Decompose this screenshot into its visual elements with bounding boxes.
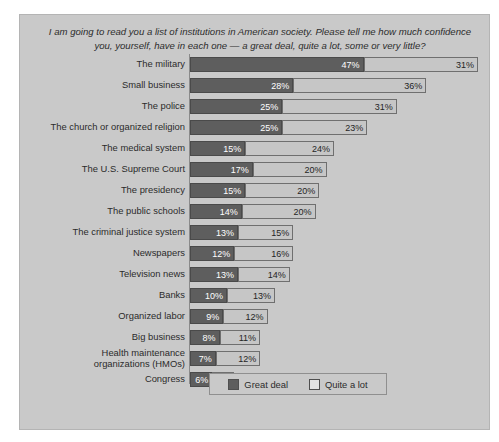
bar-segment-quite-a-lot: 31% (282, 99, 396, 114)
legend-item-great-deal: Great deal (228, 379, 288, 390)
bar-segment-great-deal: 13% (190, 267, 238, 282)
bar-segment-quite-a-lot: 23% (282, 120, 367, 135)
chart-legend: Great deal Quite a lot (209, 373, 387, 395)
bar-segment-quite-a-lot: 20% (242, 204, 316, 219)
bar-segment-quite-a-lot: 13% (227, 288, 275, 303)
bar-row: Organized labor9%12% (20, 306, 491, 327)
bar-row: The medical system15%24% (20, 138, 491, 159)
bar-segment-quite-a-lot: 20% (245, 183, 319, 198)
bar-segment-great-deal: 7% (190, 351, 216, 366)
bar-segment-quite-a-lot: 12% (223, 309, 267, 324)
bar-segment-great-deal: 25% (190, 120, 282, 135)
bar-row-label: Congress (20, 369, 188, 390)
bar-row: The public schools14%20% (20, 201, 491, 222)
bar-segment-great-deal: 15% (190, 183, 245, 198)
bar-row: Small business28%36% (20, 75, 491, 96)
bar-segment-great-deal: 12% (190, 246, 234, 261)
bar-row-label: The public schools (20, 201, 188, 222)
bar-segment-great-deal: 17% (190, 162, 253, 177)
bar-segment-great-deal: 10% (190, 288, 227, 303)
bar-segment-great-deal: 9% (190, 309, 223, 324)
bar-row-label: Newspapers (20, 243, 188, 264)
bar-row-label: The medical system (20, 138, 188, 159)
bar-row: Television news13%14% (20, 264, 491, 285)
bar-segment-great-deal: 8% (190, 330, 220, 345)
bar-row-label: The military (20, 54, 188, 75)
bar-row: The U.S. Supreme Court17%20% (20, 159, 491, 180)
bar-row: Big business8%11% (20, 327, 491, 348)
bar-segment-great-deal: 28% (190, 78, 293, 93)
bar-row: The criminal justice system13%15% (20, 222, 491, 243)
bar-row-label: The church or organized religion (20, 117, 188, 138)
bar-segment-quite-a-lot: 11% (220, 330, 261, 345)
legend-label-quite-a-lot: Quite a lot (325, 379, 368, 390)
bar-row: Newspapers12%16% (20, 243, 491, 264)
bar-segment-great-deal: 47% (190, 57, 364, 72)
bar-segment-quite-a-lot: 16% (234, 246, 293, 261)
bar-segment-quite-a-lot: 31% (364, 57, 478, 72)
bar-row: Banks10%13% (20, 285, 491, 306)
chart-question-title: I am going to read you a list of institu… (41, 25, 479, 53)
bar-row: The military47%31% (20, 54, 491, 75)
legend-swatch-great-deal (228, 379, 239, 390)
bar-row-label: Television news (20, 264, 188, 285)
bar-segment-great-deal: 25% (190, 99, 282, 114)
bar-row: The church or organized religion25%23% (20, 117, 491, 138)
bar-row: The police25%31% (20, 96, 491, 117)
legend-item-quite-a-lot: Quite a lot (309, 379, 368, 390)
bar-segment-great-deal: 13% (190, 225, 238, 240)
legend-label-great-deal: Great deal (244, 379, 288, 390)
bar-segment-quite-a-lot: 36% (293, 78, 426, 93)
plot-area: The military47%31%Small business28%36%Th… (20, 54, 491, 384)
bar-segment-great-deal: 14% (190, 204, 242, 219)
bar-row-label: The criminal justice system (20, 222, 188, 243)
bar-row-label: Big business (20, 327, 188, 348)
bar-segment-great-deal: 15% (190, 141, 245, 156)
bar-segment-quite-a-lot: 12% (216, 351, 260, 366)
bar-segment-quite-a-lot: 15% (238, 225, 293, 240)
bar-row: The presidency15%20% (20, 180, 491, 201)
bar-segment-quite-a-lot: 24% (245, 141, 334, 156)
chart-panel: I am going to read you a list of institu… (19, 14, 490, 430)
bar-row-label: Health maintenanceorganizations (HMOs) (20, 348, 188, 369)
bar-row-label: Banks (20, 285, 188, 306)
bar-row-label: Organized labor (20, 306, 188, 327)
bar-row: Health maintenanceorganizations (HMOs)7%… (20, 348, 491, 369)
bar-row-label: The presidency (20, 180, 188, 201)
legend-swatch-quite-a-lot (309, 379, 320, 390)
bar-row-label: Small business (20, 75, 188, 96)
bar-row-label: The U.S. Supreme Court (20, 159, 188, 180)
bar-row-label: The police (20, 96, 188, 117)
bar-segment-quite-a-lot: 20% (253, 162, 327, 177)
bar-segment-quite-a-lot: 14% (238, 267, 290, 282)
